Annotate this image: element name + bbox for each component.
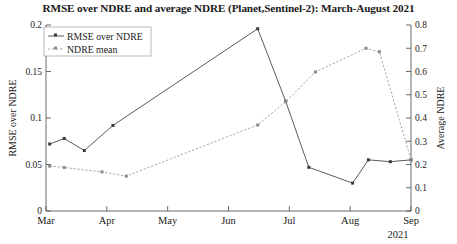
y-tick-label: 0.15 [25, 67, 42, 77]
y2-axis-title: Average NDRE [435, 87, 446, 150]
data-point-marker [314, 70, 317, 73]
y2-tick-label: 0.1 [415, 183, 427, 193]
x-tick-label: May [158, 215, 178, 226]
data-point-marker [125, 175, 128, 178]
data-point-marker [367, 158, 370, 161]
x-tick-label: Sep [403, 215, 419, 226]
data-point-marker [83, 149, 86, 152]
chart-legend: RMSE over NDRE NDRE mean [44, 27, 151, 56]
data-point-marker [378, 50, 381, 53]
y2-tick-label: 0.7 [415, 44, 427, 54]
data-point-marker [100, 170, 103, 173]
data-point-marker [389, 160, 392, 163]
x-tick-label: Apr [99, 215, 116, 226]
x-tick-label: Mar [37, 215, 55, 226]
data-point-marker [111, 124, 114, 127]
chart-plot-svg: 00.050.10.150.2 RMSE over NDRE 00.10.20.… [0, 0, 457, 244]
x-axis-year-label: 2021 [388, 229, 409, 240]
x-tick-label: Aug [341, 215, 360, 226]
data-point-marker [284, 100, 287, 103]
data-point-marker [256, 27, 259, 30]
data-point-marker [256, 123, 259, 126]
x-axis: MarAprMayJunJulAugSep 2021 [37, 206, 419, 240]
data-point-marker [63, 137, 66, 140]
y2-tick-label: 0.5 [415, 90, 427, 100]
y2-tick-label: 0.4 [415, 113, 427, 123]
y2-tick-label: 0.2 [415, 160, 427, 170]
legend-label-rmse: RMSE over NDRE [67, 31, 143, 42]
y2-tick-label: 0.3 [415, 137, 427, 147]
y-tick-label: 0.05 [25, 160, 42, 170]
data-point-marker [410, 158, 413, 161]
series-line [50, 48, 411, 176]
data-point-marker [351, 182, 354, 185]
legend-label-ndre: NDRE mean [67, 44, 117, 55]
series-ndre [48, 47, 412, 178]
x-tick-label: Jun [221, 215, 236, 226]
y-tick-label: 0.2 [30, 20, 42, 30]
y2-tick-label: 0.6 [415, 67, 427, 77]
data-point-marker [63, 166, 66, 169]
data-point-marker [48, 165, 51, 168]
data-point-marker [364, 47, 367, 50]
data-point-marker [48, 143, 51, 146]
y2-tick-label: 0.8 [415, 20, 427, 30]
y-tick-label: 0.1 [30, 113, 42, 123]
chart-container: RMSE over NDRE and average NDRE (Planet,… [0, 0, 457, 244]
x-tick-label: Jul [283, 215, 295, 226]
right-axis: 00.10.20.30.40.50.60.70.8 Average NDRE [406, 20, 446, 216]
data-point-marker [307, 166, 310, 169]
y-axis-title: RMSE over NDRE [7, 79, 18, 156]
